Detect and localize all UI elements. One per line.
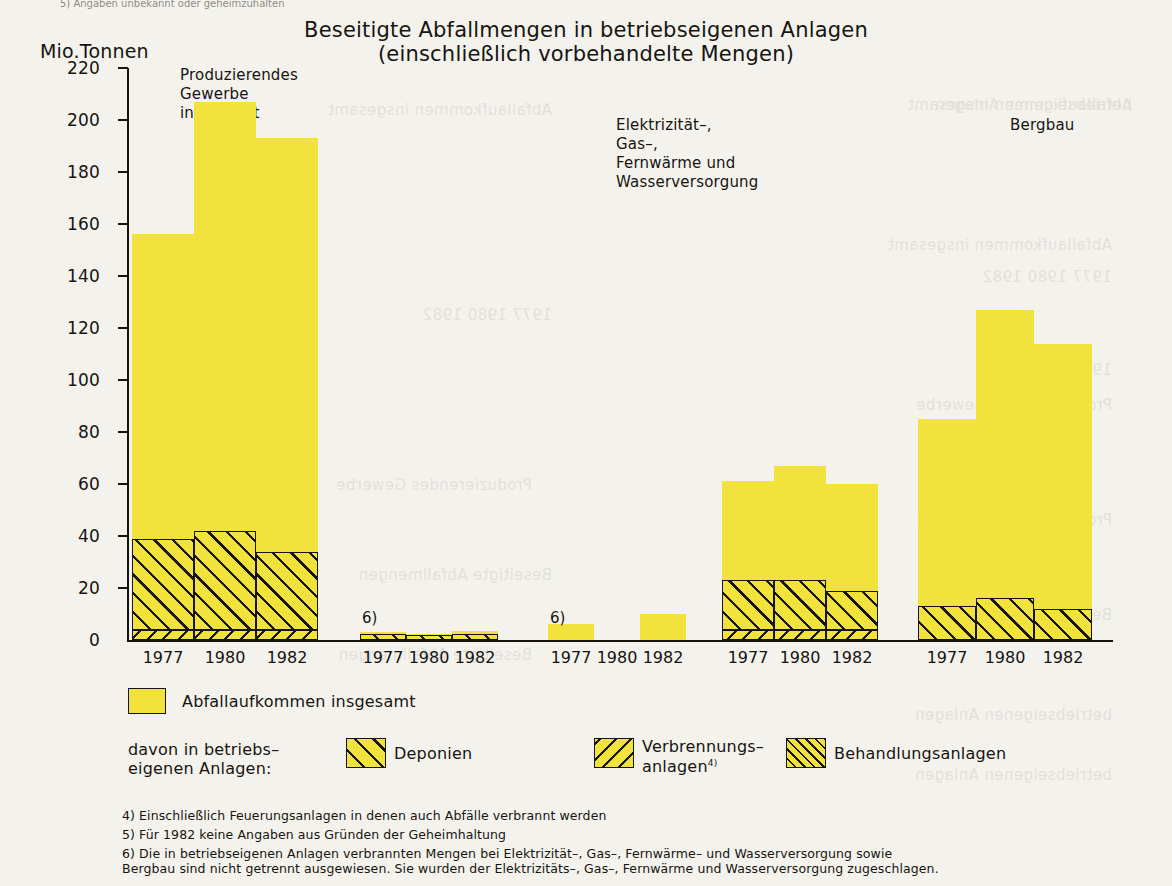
legend-swatch-total <box>128 688 166 714</box>
plot-area: 020406080100120140160180200220 Produzier… <box>128 68 1108 640</box>
y-axis-tick-label: 100 <box>48 370 100 390</box>
x-axis-tick-label: 1980 <box>205 648 246 667</box>
chart-title: Beseitigte Abfallmengen in betriebseigen… <box>0 18 1172 66</box>
y-axis-line <box>127 68 129 642</box>
bar-segment-verbrennungsanlagen <box>256 630 318 640</box>
x-axis-tick-label: 1980 <box>597 648 638 667</box>
bar[interactable] <box>774 466 826 640</box>
bar[interactable] <box>256 138 318 640</box>
x-axis-tick-label: 1982 <box>643 648 684 667</box>
bar[interactable] <box>826 484 878 640</box>
legend-label-deponien: Deponien <box>394 745 472 762</box>
bar-segment-deponien <box>722 580 774 629</box>
bar-segment-deponien <box>826 591 878 630</box>
y-axis-tick <box>118 223 128 225</box>
x-axis-tick-label: 1977 <box>927 648 968 667</box>
y-axis-tick-label: 160 <box>48 214 100 234</box>
y-axis-tick-label: 20 <box>48 578 100 598</box>
bar-group: Produzierendes Gewerbe insgesamt19771980… <box>132 68 320 640</box>
x-axis-tick-label: 1982 <box>455 648 496 667</box>
bar-segment-deponien <box>452 634 498 641</box>
bar[interactable] <box>640 614 686 640</box>
footnote-6: 6) Die in betriebseigenen Anlagen verbra… <box>122 846 939 876</box>
top-note: 5) Angaben unbekannt oder geheimzuhalten <box>60 0 284 9</box>
y-axis-tick <box>118 119 128 121</box>
x-axis-tick-label: 1980 <box>780 648 821 667</box>
bar[interactable] <box>194 102 256 640</box>
legend-label-verbrennungsanlagen: Verbrennungs– anlagen4) <box>642 738 764 775</box>
legend-label-behandlungsanlagen: Behandlungsanlagen <box>834 745 1006 762</box>
bar-group: Baugewerbe197719801982 <box>918 68 1104 640</box>
y-axis-tick-label: 220 <box>48 58 100 78</box>
bar-group: Verarbeitendes Gewerbe197719801982 <box>722 68 888 640</box>
legend-label-total: Abfallaufkommen insgesamt <box>182 693 416 710</box>
footnote-5: 5) Für 1982 keine Angaben aus Gründen de… <box>122 827 506 842</box>
legend-footnote-mark-4: 4) <box>708 758 718 768</box>
chart-subtitle: (einschließlich vorbehandelte Mengen) <box>0 42 1172 66</box>
bar-segment-deponien <box>194 531 256 630</box>
x-axis-tick-label: 1977 <box>363 648 404 667</box>
bar-segment-verbrennungsanlagen <box>194 630 256 640</box>
legend-label-verbrennungsanlagen-text: Verbrennungs– anlagen <box>642 737 764 776</box>
bar-segment-deponien <box>406 635 452 640</box>
bar-group: Bergbau1977198019826) <box>548 68 698 640</box>
bar-segment-deponien <box>256 552 318 630</box>
chart-title-line1: Beseitigte Abfallmengen in betriebseigen… <box>0 18 1172 42</box>
y-axis-tick <box>118 275 128 277</box>
x-axis-tick-label: 1977 <box>728 648 769 667</box>
x-axis-tick-label: 1982 <box>267 648 308 667</box>
bar-segment-verbrennungsanlagen <box>132 630 194 640</box>
bar-segment-deponien <box>774 580 826 629</box>
bar[interactable] <box>452 631 498 640</box>
bar-segment-verbrennungsanlagen <box>774 630 826 640</box>
x-axis-tick-label: 1980 <box>985 648 1026 667</box>
bar[interactable] <box>406 634 452 641</box>
x-axis-tick-label: 1977 <box>143 648 184 667</box>
bar-group: Elektrizität–, Gas–, Fernwärme und Wasse… <box>360 68 510 640</box>
bar-segment-verbrennungsanlagen <box>826 630 878 640</box>
x-axis-tick-label: 1982 <box>1043 648 1084 667</box>
y-axis-tick-label: 40 <box>48 526 100 546</box>
bar-segment-total <box>976 310 1034 640</box>
bar-segment-deponien <box>132 539 194 630</box>
bar[interactable] <box>722 481 774 640</box>
bar-segment-total <box>640 614 686 640</box>
bar-segment-verbrennungsanlagen <box>722 630 774 640</box>
bar[interactable] <box>1034 344 1092 640</box>
y-axis-tick-label: 200 <box>48 110 100 130</box>
bar-segment-deponien <box>976 598 1034 640</box>
y-axis-tick <box>118 587 128 589</box>
bar-segment-deponien <box>1034 609 1092 640</box>
bar[interactable] <box>918 419 976 640</box>
footnote-4: 4) Einschließlich Feuerungsanlagen in de… <box>122 808 606 823</box>
y-axis-tick-label: 180 <box>48 162 100 182</box>
legend-swatch-verbrennungsanlagen <box>594 738 634 768</box>
bar-segment-deponien <box>918 606 976 640</box>
y-axis-tick <box>118 431 128 433</box>
bar[interactable] <box>360 632 406 640</box>
legend-swatch-behandlungsanlagen <box>786 738 826 768</box>
group-footnote-mark: 6) <box>550 609 565 627</box>
y-axis-tick-label: 140 <box>48 266 100 286</box>
bar[interactable] <box>976 310 1034 640</box>
y-axis-tick <box>118 327 128 329</box>
x-axis-tick-label: 1982 <box>832 648 873 667</box>
y-axis-tick-label: 60 <box>48 474 100 494</box>
legend-sublabel: davon in betriebs– eigenen Anlagen: <box>128 740 279 778</box>
y-axis-tick <box>118 67 128 69</box>
legend-row-breakdown: davon in betriebs– eigenen Anlagen: Depo… <box>128 736 1138 796</box>
bar[interactable] <box>132 234 194 640</box>
chart-figure: 5) Angaben unbekannt oder geheimzuhalten… <box>0 0 1172 886</box>
y-axis-tick <box>118 483 128 485</box>
bar-segment-total <box>1034 344 1092 640</box>
legend-row-total: Abfallaufkommen insgesamt <box>128 688 1138 722</box>
y-axis-tick-label: 120 <box>48 318 100 338</box>
x-axis-tick-label: 1977 <box>551 648 592 667</box>
y-axis-tick-label: 0 <box>48 630 100 650</box>
x-axis-line <box>127 640 1113 642</box>
chart-legend: Abfallaufkommen insgesamt davon in betri… <box>128 688 1138 796</box>
legend-swatch-deponien <box>346 738 386 768</box>
bar-segment-deponien <box>360 634 406 641</box>
y-axis-tick <box>118 171 128 173</box>
y-axis-tick <box>118 535 128 537</box>
